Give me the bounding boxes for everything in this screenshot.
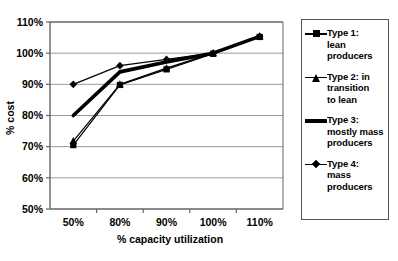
legend-label-type-2: Type 2: in transition to lean [327,71,370,106]
legend-label-type-1: Type 1: lean producers [327,27,373,62]
series-line [73,36,259,115]
legend-marker-square-icon [305,28,327,40]
y-tick-label: 90% [22,78,44,90]
chart-legend: Type 1: lean producers Type 2: in transi… [301,19,389,220]
legend-label-line: to lean [327,94,370,106]
legend-label-line: producers [327,137,383,149]
x-tick-label: 110% [247,216,274,228]
legend-label-line: producers [327,50,373,62]
legend-item-type-2: Type 2: in transition to lean [305,71,385,106]
legend-label-line: mass [327,169,373,181]
x-tick-label: 80% [109,216,131,228]
x-tick-label: 100% [200,216,228,228]
x-tick-label: 50% [63,216,85,228]
x-tick-label: 90% [156,216,178,228]
legend-label-line: mostly mass [327,126,383,138]
y-axis-tick-labels: 50%60%70%80%90%100%110% [16,16,44,215]
gridlines [50,22,283,178]
data-point-marker [116,62,124,70]
legend-label-line: transition [327,82,370,94]
legend-label-line: Type 4: [327,158,373,170]
legend-marker-triangle-icon [305,72,327,84]
legend-marker-line-icon [305,115,327,127]
y-tick-label: 110% [17,16,44,28]
legend-label-type-4: Type 4: mass producers [327,158,373,193]
x-axis-tick-labels: 50%80%90%100%110% [63,216,274,228]
y-tick-label: 100% [16,47,44,59]
legend-label-line: Type 3: [327,114,383,126]
legend-marker-diamond-icon [305,159,327,171]
legend-label-type-3: Type 3: mostly mass producers [327,114,383,149]
legend-label-line: producers [327,181,373,193]
y-axis-title: % cost [4,101,16,135]
y-tick-label: 80% [22,109,44,121]
chart-screenshot: 50%60%70%80%90%100%110% 50%80%90%100%110… [0,0,398,261]
y-tick-label: 70% [22,140,44,152]
chart-canvas: 50%60%70%80%90%100%110% 50%80%90%100%110… [0,0,292,261]
chart-plot-panel: 50%60%70%80%90%100%110% 50%80%90%100%110… [0,0,292,261]
legend-label-line: lean [327,39,373,51]
data-series [69,32,263,148]
x-axis-title: % capacity utilization [117,233,223,245]
legend-item-type-4: Type 4: mass producers [305,158,385,193]
legend-item-type-3: Type 3: mostly mass producers [305,114,385,149]
legend-item-type-1: Type 1: lean producers [305,27,385,62]
legend-label-line: Type 2: in [327,71,370,83]
y-tick-label: 50% [22,203,44,215]
data-point-marker [70,81,78,89]
legend-label-line: Type 1: [327,27,373,39]
y-tick-label: 60% [22,172,44,184]
